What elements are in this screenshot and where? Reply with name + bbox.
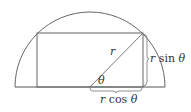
height-label-angle: θ — [179, 52, 186, 65]
inscribed-rectangle — [37, 33, 143, 87]
semicircle-diagram: r θ r sin θ r cos θ — [0, 0, 191, 112]
width-label: r cos θ — [100, 93, 138, 106]
height-label: r sin θ — [150, 52, 186, 65]
angle-label: θ — [98, 74, 105, 87]
width-label-angle: θ — [131, 93, 138, 106]
height-brace — [143, 34, 149, 86]
height-label-func: sin — [155, 52, 178, 65]
radius-label: r — [110, 45, 116, 58]
width-label-func: cos — [105, 93, 130, 106]
